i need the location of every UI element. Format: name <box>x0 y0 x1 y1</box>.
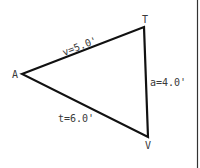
vertex-label-A: A <box>12 69 18 80</box>
side-label-a: a=4.0' <box>150 77 186 88</box>
triangle-diagram: A T V v=5.0' a=4.0' t=6.0' <box>0 0 200 168</box>
side-label-t: t=6.0' <box>58 113 94 124</box>
vertex-label-V: V <box>145 140 151 151</box>
vertex-label-T: T <box>142 14 148 25</box>
side-label-v: v=5.0' <box>61 35 99 58</box>
